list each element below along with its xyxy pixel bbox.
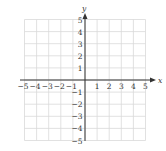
x-tick-label: −4	[30, 82, 41, 91]
x-tick-label: 1	[95, 82, 100, 91]
x-tick-label: 5	[143, 82, 148, 91]
x-tick-label: 2	[107, 82, 112, 91]
y-tick-label: −5	[71, 137, 82, 146]
x-tick-labels: −5−4−3−2−112345	[17, 82, 148, 91]
x-tick-label: −5	[17, 82, 28, 91]
x-tick-label: 4	[131, 82, 136, 91]
x-tick-label: −3	[42, 82, 53, 91]
y-axis-label: y	[81, 4, 87, 13]
y-tick-label: 4	[78, 28, 83, 37]
x-tick-label: −2	[54, 82, 65, 91]
y-tick-label: −1	[71, 88, 82, 97]
y-tick-label: 1	[78, 64, 83, 73]
y-tick-label: −4	[71, 124, 82, 133]
y-tick-label: −3	[71, 112, 82, 121]
coordinate-grid: x y −5−4−3−2−112345 12345−1−2−3−4−5	[0, 0, 166, 151]
x-axis-label: x	[158, 76, 163, 85]
y-tick-label: −2	[71, 100, 82, 109]
x-arrow-icon	[150, 78, 156, 83]
y-tick-label: 5	[78, 16, 83, 25]
x-tick-label: 3	[119, 82, 124, 91]
y-tick-label: 3	[78, 40, 83, 49]
y-arrow-icon	[83, 13, 88, 19]
y-tick-label: 2	[78, 52, 83, 61]
